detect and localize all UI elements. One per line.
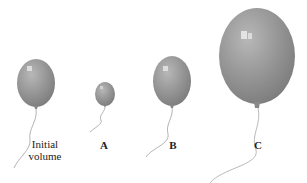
label-c: C: [252, 139, 264, 151]
label-initial-volume: Initial volume: [20, 138, 70, 162]
balloon-c: [210, 8, 295, 183]
label-a: A: [98, 139, 110, 151]
label-b: B: [167, 139, 179, 151]
balloon-volume-figure: Initial volume A B C: [0, 0, 307, 183]
balloon-a: [90, 82, 115, 132]
